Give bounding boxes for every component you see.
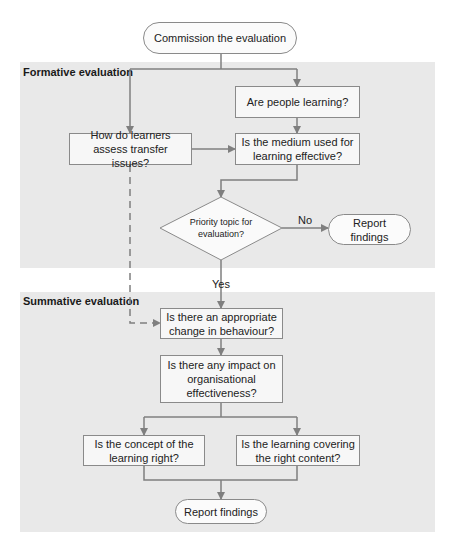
decision-priority-text: Priority topic for evaluation? [182,216,260,240]
report-findings-node-1: Report findings [328,214,411,245]
node-behaviour-change: Is there an appropriate change in behavi… [160,308,283,339]
node-organisational-impact: Is there any impact on organisational ef… [160,355,283,403]
edge-label-no: No [298,214,312,226]
report-findings-node-2: Report findings [175,499,267,524]
node-concept-right: Is the concept of the learning right? [83,435,205,466]
connector-lines [0,0,456,550]
start-node: Commission the evaluation [143,22,297,54]
node-right-content: Is the learning covering the right conte… [236,435,360,466]
node-transfer-issues: How do learners assess transfer issues? [69,133,192,165]
edge-label-yes: Yes [212,278,230,290]
node-people-learning: Are people learning? [235,86,360,118]
node-medium-effective: Is the medium used for learning effectiv… [235,133,360,165]
